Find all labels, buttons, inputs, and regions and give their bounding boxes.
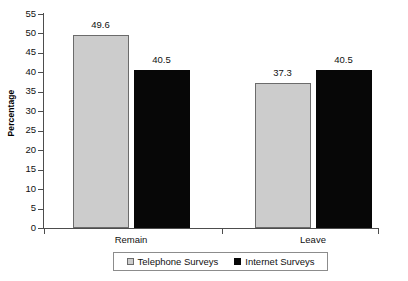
legend-item-telephone-surveys[interactable]: Telephone Surveys — [127, 256, 219, 267]
bar-remain-telephone[interactable] — [73, 35, 129, 228]
y-tick-label: 20 — [14, 144, 36, 155]
bar-value-label: 40.5 — [316, 54, 372, 65]
y-tick-mark — [38, 92, 43, 93]
x-tick-mark — [222, 229, 223, 234]
y-tick-label: 40 — [14, 66, 36, 77]
y-tick-mark — [38, 53, 43, 54]
y-tick-label: 0 — [14, 222, 36, 233]
x-tick-mark — [378, 229, 379, 234]
x-tick-mark — [44, 229, 45, 234]
y-tick-mark — [38, 72, 43, 73]
y-tick-label: 10 — [14, 183, 36, 194]
y-tick-mark — [38, 228, 43, 229]
y-tick-mark — [38, 14, 43, 15]
y-tick-mark — [38, 189, 43, 190]
bar-leave-internet[interactable] — [316, 70, 372, 228]
y-tick-label: 50 — [14, 27, 36, 38]
chart-legend: Telephone Surveys Internet Surveys — [113, 252, 328, 271]
y-tick-mark — [38, 131, 43, 132]
legend-label-internet: Internet Surveys — [245, 256, 314, 267]
y-tick-label: 45 — [14, 46, 36, 57]
y-tick-mark — [38, 150, 43, 151]
bar-value-label: 49.6 — [73, 19, 129, 30]
y-tick-mark — [38, 111, 43, 112]
legend-swatch-telephone-icon — [127, 258, 134, 265]
y-tick-label: 55 — [14, 8, 36, 19]
bar-remain-internet[interactable] — [134, 70, 190, 228]
x-axis-line — [43, 228, 379, 229]
y-tick-mark — [38, 170, 43, 171]
legend-item-internet-surveys[interactable]: Internet Surveys — [234, 256, 314, 267]
y-axis-line — [43, 13, 44, 229]
x-category-label-remain: Remain — [81, 234, 181, 245]
x-category-label-leave: Leave — [263, 234, 363, 245]
y-tick-label: 5 — [14, 202, 36, 213]
y-tick-label: 15 — [14, 163, 36, 174]
bar-chart: Percentage 0510152025303540455055 49.640… — [0, 0, 408, 281]
y-tick-label: 30 — [14, 105, 36, 116]
bar-leave-telephone[interactable] — [255, 83, 311, 228]
y-tick-mark — [38, 33, 43, 34]
legend-label-telephone: Telephone Surveys — [138, 256, 219, 267]
legend-swatch-internet-icon — [234, 258, 241, 265]
bar-value-label: 37.3 — [255, 67, 311, 78]
y-tick-label: 25 — [14, 124, 36, 135]
bar-value-label: 40.5 — [134, 54, 190, 65]
y-tick-label: 35 — [14, 85, 36, 96]
y-tick-mark — [38, 209, 43, 210]
